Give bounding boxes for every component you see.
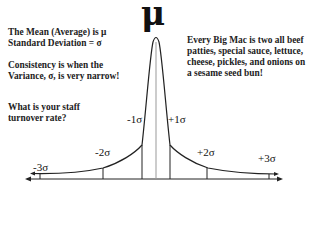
minus-3-sigma-label: -3σ (33, 161, 48, 173)
left-arrow-icon (25, 177, 31, 182)
minus-1-sigma-label: -1σ (127, 113, 142, 125)
minus-2-sigma-label: -2σ (95, 146, 110, 158)
plus-1-sigma-label: +1σ (168, 113, 186, 125)
plus-2-sigma-label: +2σ (197, 146, 215, 158)
right-arrow-icon (277, 177, 283, 182)
distribution-curve (32, 38, 277, 175)
plus-3-sigma-label: +3σ (258, 152, 276, 164)
